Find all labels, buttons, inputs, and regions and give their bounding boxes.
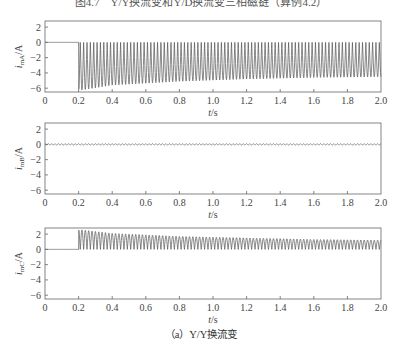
y-tick-label: 2 [36,229,41,240]
figure-canvas: 20−2−4−600.20.40.60.81.01.21.41.61.82.0t… [0,0,402,351]
y-tick-label: −4 [30,274,41,285]
waveform-line [45,144,381,146]
chart-panel-imb: 20−2−4−600.20.40.60.81.01.21.41.61.82.0t… [13,123,387,220]
x-tick-label: 0.2 [72,302,85,313]
y-tick-label: 2 [36,22,41,33]
y-tick-label: −6 [30,290,41,301]
x-axis-label: t/s [208,314,218,325]
y-axis-label: imA/A [13,44,26,68]
y-tick-label: −2 [30,154,41,165]
x-tick-label: 0.2 [72,95,85,106]
y-axis-label: imB/A [13,146,26,170]
y-tick-label: 2 [36,124,41,135]
x-tick-label: 2.0 [375,95,388,106]
x-tick-label: 1.8 [341,197,354,208]
x-tick-label: 0 [43,197,48,208]
y-tick-label: 0 [36,139,41,150]
y-tick-label: 0 [36,37,41,48]
x-tick-label: 0.6 [140,302,153,313]
x-tick-label: 1.4 [274,302,287,313]
y-tick-label: −2 [30,259,41,270]
x-tick-label: 2.0 [375,197,388,208]
plot-frame [45,228,381,299]
x-tick-label: 1.0 [207,302,220,313]
x-tick-label: 1.8 [341,302,354,313]
x-tick-label: 1.2 [240,302,253,313]
x-tick-label: 0.4 [106,95,119,106]
x-tick-label: 1.4 [274,197,287,208]
x-tick-label: 0.6 [140,95,153,106]
y-tick-label: −6 [30,185,41,196]
x-tick-label: 0.8 [173,95,186,106]
x-tick-label: 1.2 [240,95,253,106]
plot-frame [45,123,381,194]
y-tick-label: −2 [30,52,41,63]
chart-panel-imc: 20−2−4−600.20.40.60.81.01.21.41.61.82.0t… [13,228,387,325]
x-axis-label: t/s [208,209,218,220]
x-tick-label: 0.4 [106,302,119,313]
waveform-line [45,230,381,249]
x-tick-label: 0.4 [106,197,119,208]
x-tick-label: 0 [43,302,48,313]
y-tick-label: −6 [30,83,41,94]
x-tick-label: 0.6 [140,197,153,208]
x-tick-label: 1.0 [207,197,220,208]
x-axis-label: t/s [208,107,218,118]
x-tick-label: 2.0 [375,302,388,313]
x-tick-label: 1.4 [274,95,287,106]
x-tick-label: 1.6 [308,95,321,106]
y-tick-label: 0 [36,244,41,255]
y-tick-label: −4 [30,169,41,180]
x-tick-label: 1.8 [341,95,354,106]
x-tick-label: 0.8 [173,197,186,208]
x-tick-label: 1.0 [207,95,220,106]
figure-caption: （a）Y/Y换流变 [0,326,402,341]
x-tick-label: 1.6 [308,197,321,208]
waveform-line [45,42,381,90]
x-tick-label: 1.2 [240,197,253,208]
x-tick-label: 0.2 [72,197,85,208]
chart-panel-ima: 20−2−4−600.20.40.60.81.01.21.41.61.82.0t… [13,21,387,118]
x-tick-label: 1.6 [308,302,321,313]
y-axis-label: imC/A [13,251,26,275]
x-tick-label: 0.8 [173,302,186,313]
y-tick-label: −4 [30,67,41,78]
x-tick-label: 0 [43,95,48,106]
plot-frame [45,21,381,92]
